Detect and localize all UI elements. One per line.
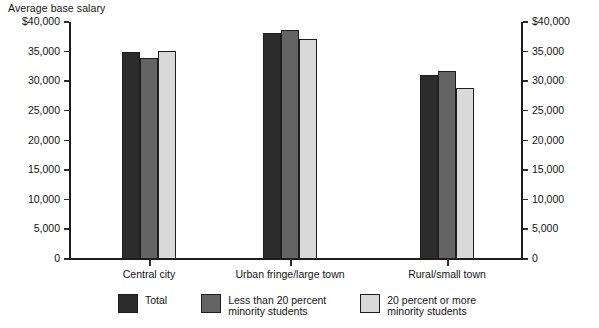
y-tick-mark-right [523,140,528,142]
y-tick-mark-right [523,21,528,23]
bar-chart: Average base salary $40,000$40,00035,000… [0,0,599,328]
bar [158,51,176,259]
y-tick-label-left: 10,000 [28,193,60,205]
y-tick-label-left: 25,000 [28,104,60,116]
y-tick-mark-left [64,140,69,142]
y-tick-mark-left [64,199,69,201]
y-tick-label-left: $40,000 [22,15,60,27]
x-tick-mark [447,259,449,266]
y-tick-label-right: 35,000 [532,45,564,57]
bar [122,52,140,259]
y-axis-right-line [521,22,523,260]
y-tick-mark-left [64,228,69,230]
legend-color-swatch [118,294,138,313]
x-tick-mark [149,259,151,266]
bar [456,88,474,259]
y-tick-label-right: 20,000 [532,134,564,146]
y-tick-label-left: 20,000 [28,134,60,146]
bar [438,71,456,259]
legend-color-swatch [201,294,221,313]
y-tick-label-right: 25,000 [532,104,564,116]
bar [140,58,158,259]
x-tick-mark [290,259,292,266]
y-tick-label-right: 0 [532,252,538,264]
y-tick-mark-left [64,80,69,82]
y-axis-title: Average base salary [8,2,105,14]
bar [281,30,299,259]
legend-item: Total [118,294,167,313]
y-tick-mark-right [523,169,528,171]
bar [420,75,438,259]
y-tick-label-left: 15,000 [28,163,60,175]
y-tick-label-right: 5,000 [532,222,558,234]
y-axis-left-line [69,22,71,260]
y-tick-mark-left [64,169,69,171]
x-axis-category-label: Urban fringe/large town [235,268,344,280]
y-tick-mark-left [64,110,69,112]
legend-item: 20 percent or more minority students [360,294,476,316]
bar [299,39,317,259]
y-tick-mark-left [64,258,69,260]
legend-item: Less than 20 percent minority students [201,294,326,316]
y-tick-mark-right [523,258,528,260]
y-tick-mark-left [64,51,69,53]
plot-area: $40,000$40,00035,00035,00030,00030,00025… [70,22,522,259]
y-tick-label-right: 30,000 [532,74,564,86]
x-axis-category-label: Rural/small town [408,268,486,280]
y-tick-mark-left [64,21,69,23]
legend-color-swatch [360,294,380,313]
y-tick-label-right: 10,000 [532,193,564,205]
y-tick-mark-right [523,110,528,112]
y-tick-mark-right [523,80,528,82]
y-tick-label-left: 0 [54,252,60,264]
legend-label: Total [145,294,167,306]
y-tick-mark-right [523,199,528,201]
y-tick-mark-right [523,228,528,230]
chart-legend: TotalLess than 20 percent minority stude… [118,294,476,316]
y-tick-label-left: 5,000 [34,222,60,234]
legend-label: 20 percent or more minority students [387,294,476,316]
y-tick-label-left: 30,000 [28,74,60,86]
y-tick-label-left: 35,000 [28,45,60,57]
y-tick-label-right: 15,000 [532,163,564,175]
bar [263,33,281,259]
y-tick-label-right: $40,000 [532,15,570,27]
y-tick-mark-right [523,51,528,53]
x-axis-category-label: Central city [123,268,176,280]
legend-label: Less than 20 percent minority students [228,294,326,316]
